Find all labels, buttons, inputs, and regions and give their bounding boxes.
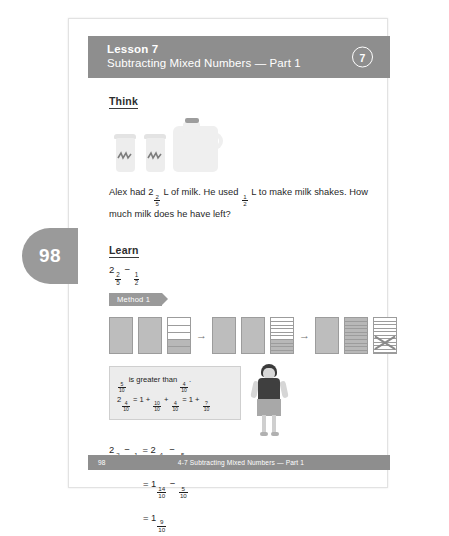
bar-group-3 [315,317,397,354]
girl-arm-right [279,381,288,399]
problem-statement: Alex had 225 L of milk. He used 12 L to … [109,185,372,222]
bar-tenths-crossed-out [373,317,397,354]
bar-segment-filled [168,347,190,353]
problem-text-b: L of milk. He used [161,187,241,197]
girl-shoe-left [260,432,268,436]
bar-tenths-all-shaded [344,317,368,354]
jug-neck [183,122,200,134]
learn-heading: Learn [109,244,139,258]
footer-lesson-title: 4-7 Subtracting Mixed Numbers — Part 1 [128,459,390,466]
think-heading: Think [109,95,138,109]
learn-expression: 225 − 12 [109,264,372,286]
bar-segment [168,333,190,340]
lesson-header: Lesson 7 Subtracting Mixed Numbers — Par… [88,36,390,78]
callout-area: 510 is greater than 410. 2410 = 1 + 1010… [109,366,372,438]
problem-text-a: Alex had 2 [109,187,153,197]
eq1-equals: = 2 [140,444,156,455]
callout-f1: 410 [122,401,130,412]
girl-shoe-right [271,432,279,436]
callout-eq2: = 1 + [180,395,202,404]
equation-line-3: = 1910 [109,512,372,534]
fraction-denominator: 5 [115,279,121,286]
eq3-f3: 910 [157,519,166,533]
callout-text-mid: is greater than [127,375,180,384]
eq3-equals: = 1 [143,512,156,523]
callout-line-1: 510 is greater than 410. [117,373,233,392]
callout-period: . [189,375,191,384]
problem-fraction-1: 25 [154,194,159,208]
eq2-f4: 510 [179,486,188,500]
bar-whole [109,317,133,354]
callout-plus1: + [162,395,171,404]
girl-student-illustration [249,364,289,438]
girl-leg-right [272,415,276,433]
callout-fraction-b: 410 [180,382,188,393]
girl-torso [258,378,280,400]
learn-section: Learn 225 − 12 Method 1 [109,240,372,306]
learn-fraction-2: 12 [134,272,140,286]
fraction-denominator: 10 [118,387,126,393]
bar-tenths-4-shaded [270,317,294,354]
lesson-badge-number: 7 [360,51,366,63]
fraction-denominator: 10 [180,387,188,393]
eq2-op2: − [167,478,178,489]
bar-whole [315,317,339,354]
fraction-bar-models: → [109,317,372,354]
callout-whole: 2 [117,395,121,404]
footer-page-number: 98 [88,459,128,466]
bar-segment [168,326,190,333]
callout-f3: 410 [172,401,180,412]
fraction-denominator: 10 [157,526,166,533]
jug-cap [185,118,199,123]
milk-jug-icon [173,118,225,172]
callout-fraction-a: 510 [118,382,126,393]
milk-shake-cup-icon-2 [143,134,167,172]
think-illustration [109,118,372,172]
callout-f2: 1010 [153,401,161,412]
fraction-denominator: 5 [154,200,159,207]
bar-whole [212,317,236,354]
fraction-denominator: 10 [172,406,180,412]
bar-group-2 [212,317,294,354]
side-page-tab: 98 [22,228,78,284]
eq1-op2: − [167,444,178,455]
milk-shake-cup-icon [113,134,137,172]
fraction-denominator: 10 [157,492,166,499]
callout-f4: ?10 [203,401,211,412]
method-banner: Method 1 [109,293,162,306]
page-footer: 98 4-7 Subtracting Mixed Numbers — Part … [88,455,390,470]
bar-fifths-2-shaded [167,317,191,354]
cross-out-icon [374,318,396,352]
bar-segment-filled [271,351,293,354]
bar-segment-filled [168,340,190,347]
equation-line-2: = 11410 − 510 [109,478,372,500]
eq2-f3: 1410 [157,486,166,500]
girl-leg-left [262,415,266,433]
bar-segment [168,318,190,325]
eq2-equals: = 1 [143,478,156,489]
learn-fraction-1: 25 [115,272,121,286]
lesson-number-badge: 7 [352,47,373,68]
fraction-denominator: 2 [134,279,140,286]
side-page-number: 98 [39,245,61,267]
bar-group-1 [109,317,191,354]
bar-whole [241,317,265,354]
fraction-denominator: 2 [242,200,247,207]
callout-line-2: 2410 = 1 + 1010 + 410 = 1 + ?10 [117,393,233,412]
eq1-op1: − [122,444,133,455]
cup-swirl-graphic [117,151,133,162]
learn-whole: 2 [109,264,114,275]
arrow-icon: → [196,330,207,341]
arrow-icon-2: → [299,330,310,341]
learn-operator: − [125,264,131,275]
problem-fraction-2: 12 [242,194,247,208]
textbook-page-sheet: Lesson 7 Subtracting Mixed Numbers — Par… [68,18,388,488]
fraction-denominator: 10 [153,406,161,412]
explanation-callout: 510 is greater than 410. 2410 = 1 + 1010… [109,366,241,420]
fraction-denominator: 10 [203,406,211,412]
lesson-title: Subtracting Mixed Numbers — Part 1 [107,57,301,71]
callout-eq1: = 1 + [131,395,153,404]
lesson-label: Lesson 7 [107,43,301,57]
bar-whole [138,317,162,354]
